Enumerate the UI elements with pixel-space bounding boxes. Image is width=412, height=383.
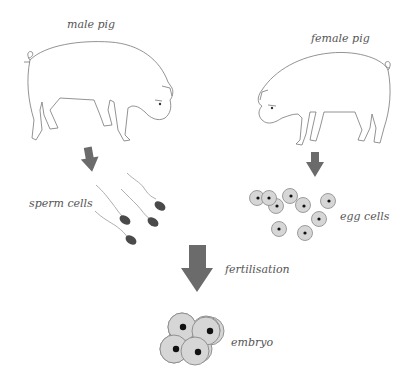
- arrow-male-to-sperm: [79, 146, 101, 174]
- label-sperm-cells: sperm cells: [29, 197, 93, 210]
- label-female-pig: female pig: [311, 32, 370, 45]
- label-embryo: embryo: [231, 336, 273, 349]
- diagram-canvas: [0, 0, 412, 383]
- label-fertilisation: fertilisation: [225, 263, 290, 276]
- label-egg-cells: egg cells: [340, 210, 389, 223]
- embryo-cells: [160, 313, 220, 365]
- arrow-fertilisation: [181, 245, 213, 292]
- male-pig-illustration: [24, 42, 173, 141]
- arrow-female-to-egg: [306, 152, 324, 177]
- sperm-cells-group: [95, 173, 167, 247]
- female-pig-illustration: [258, 52, 390, 145]
- label-male-pig: male pig: [67, 18, 115, 31]
